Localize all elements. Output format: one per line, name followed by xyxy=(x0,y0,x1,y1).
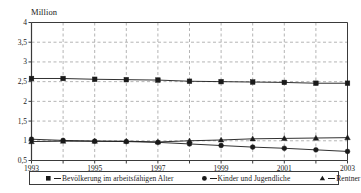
legend-label: Rentner xyxy=(336,174,360,183)
y-axis-tick-label: 2,5 xyxy=(5,77,27,86)
square-marker-icon xyxy=(29,76,34,81)
circle-marker-icon xyxy=(250,145,255,150)
square-marker-icon xyxy=(314,81,319,86)
square-marker-icon xyxy=(124,77,129,82)
square-marker-icon xyxy=(44,174,53,183)
triangle-marker-icon xyxy=(318,174,327,183)
y-axis-tick-label: 2 xyxy=(5,97,27,106)
data-series-layer xyxy=(29,76,351,154)
legend-entry: Kinder und Jugendliche xyxy=(200,174,291,183)
data-series xyxy=(29,135,351,144)
legend-entry: Bevölkerung im arbeitsfähigen Alter xyxy=(44,174,174,183)
circle-marker-icon xyxy=(345,149,350,154)
y-axis-tick-label: 3 xyxy=(5,57,27,66)
chart-legend: Bevölkerung im arbeitsfähigen AlterKinde… xyxy=(29,171,339,185)
line-chart: Million 0,511,522,533,54 199319951997199… xyxy=(0,0,361,193)
legend-label: Bevölkerung im arbeitsfähigen Alter xyxy=(62,174,174,183)
square-marker-icon xyxy=(250,80,255,85)
legend-line-sample xyxy=(328,178,335,179)
legend-line-sample xyxy=(210,178,217,179)
y-axis-tick-label: 3,5 xyxy=(5,38,27,47)
circle-marker-icon xyxy=(282,146,287,151)
circle-marker-icon xyxy=(200,174,209,183)
square-marker-icon xyxy=(345,81,350,86)
y-axis-tick-label: 1 xyxy=(5,136,27,145)
y-axis-tick-label: 4 xyxy=(5,18,27,27)
square-marker-icon xyxy=(61,76,66,81)
square-marker-icon xyxy=(156,78,161,83)
legend-label: Kinder und Jugendliche xyxy=(218,174,291,183)
legend-line-sample xyxy=(54,178,61,179)
y-axis-tick-label: 1,5 xyxy=(5,117,27,126)
circle-marker-icon xyxy=(219,143,224,148)
square-marker-icon xyxy=(92,77,97,82)
circle-marker-icon xyxy=(314,147,319,152)
legend-entry: Rentner xyxy=(318,174,360,183)
square-marker-icon xyxy=(219,79,224,84)
plot-area xyxy=(0,0,361,193)
square-marker-icon xyxy=(187,79,192,84)
square-marker-icon xyxy=(282,80,287,85)
